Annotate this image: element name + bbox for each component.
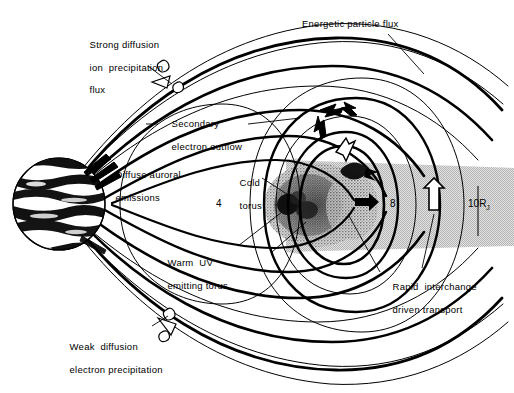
label-cold-torus: Cold torus bbox=[228, 166, 262, 222]
label-diffuse-line2: emissions bbox=[116, 192, 161, 203]
label-rapid-line2: driven transport bbox=[393, 304, 463, 315]
label-rapid-interchange: Rapid interchange driven transport bbox=[381, 270, 477, 326]
label-diffuse-auroral-emissions: Diffuse auroral emissions bbox=[104, 158, 181, 214]
tick-label-middle-8: 8 bbox=[390, 198, 396, 209]
tick-label-inner-4: 4 bbox=[216, 198, 222, 209]
label-energetic-particle-flux: Energetic particle flux bbox=[302, 18, 399, 29]
label-strong-diffusion: Strong diffusion ion precipitation flux bbox=[78, 28, 163, 106]
label-secondary-line2: electron outflow bbox=[172, 141, 243, 152]
label-warm-uv-torus: Warm UV emitting torus bbox=[156, 246, 228, 302]
tick-label-outer-10rj: 10RJ bbox=[468, 198, 490, 211]
tick-outer-subscript: J bbox=[486, 204, 490, 211]
hollow-outflow-arrow bbox=[336, 138, 355, 161]
label-secondary-line1: Secondary bbox=[172, 118, 220, 129]
label-strong-diffusion-line2: ion precipitation bbox=[90, 62, 164, 73]
label-cold-torus-line1: Cold bbox=[240, 177, 261, 188]
label-strong-diffusion-line3: flux bbox=[90, 84, 106, 95]
label-secondary-electron-outflow: Secondary electron outflow bbox=[160, 107, 242, 163]
label-diffuse-line1: Diffuse auroral bbox=[116, 169, 181, 180]
label-cold-torus-line2: torus bbox=[240, 200, 262, 211]
label-weak-diffusion: Weak diffusion electron precipitation bbox=[58, 330, 163, 386]
label-warm-uv-line2: emitting torus bbox=[168, 280, 229, 291]
label-weak-line1: Weak diffusion bbox=[70, 341, 138, 352]
label-strong-diffusion-line1: Strong diffusion bbox=[90, 39, 160, 50]
jovian-magnetosphere-figure: Strong diffusion ion precipitation flux … bbox=[0, 0, 514, 393]
label-weak-line2: electron precipitation bbox=[70, 364, 163, 375]
label-rapid-line1: Rapid interchange bbox=[393, 281, 477, 292]
tick-outer-value: 10 bbox=[468, 198, 479, 209]
label-warm-uv-line1: Warm UV bbox=[168, 257, 213, 268]
